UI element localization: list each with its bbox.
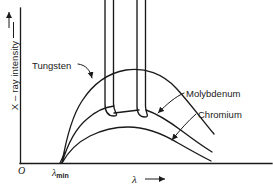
characteristic-line-k-beta xyxy=(105,0,117,116)
lambda-min-subscript: min xyxy=(56,172,68,179)
y-axis-label-text: X – ray intensity xyxy=(9,41,20,110)
curve-molybdenum xyxy=(62,106,114,163)
curve-label-molybdenum: Molybdenum xyxy=(186,89,240,99)
lambda-min-label: λmin xyxy=(52,168,69,178)
curve-molybdenum-mid xyxy=(114,110,139,113)
y-axis-label-dash xyxy=(13,22,14,38)
curve-chromium xyxy=(62,127,211,163)
xray-spectrum-figure: X – ray intensity λ O λmin Tungsten Moly… xyxy=(0,0,273,191)
curve-label-chromium: Chromium xyxy=(198,110,242,120)
x-axis-label: λ xyxy=(132,173,137,185)
characteristic-line-k-alpha xyxy=(137,0,147,117)
y-axis-label: X – ray intensity xyxy=(6,6,22,126)
leader-molybdenum xyxy=(158,93,184,113)
origin-label: O xyxy=(18,166,25,176)
leader-tungsten xyxy=(78,64,92,78)
curve-tungsten xyxy=(62,69,214,163)
x-axis-label-text: λ xyxy=(132,173,137,185)
curve-label-tungsten: Tungsten xyxy=(32,61,71,71)
